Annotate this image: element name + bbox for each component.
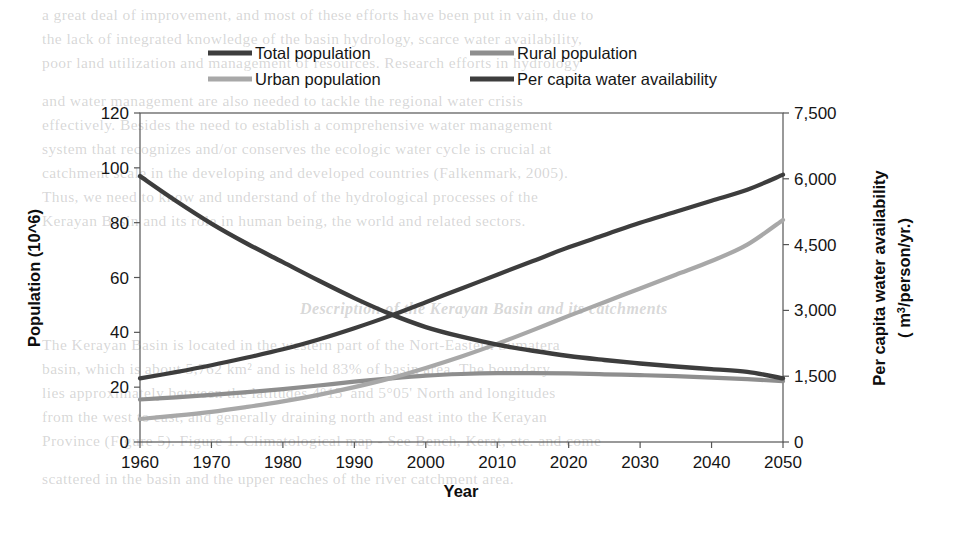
x-tick-label: 2020 — [550, 453, 588, 472]
y-axis-title: Population (10^6) — [25, 209, 43, 347]
left-tick-label: 20 — [110, 378, 129, 397]
chart-series-lines — [140, 175, 783, 419]
right-tick-label: 7,500 — [794, 104, 837, 123]
x-tick-label: 1990 — [335, 453, 373, 472]
x-tick-label: 2040 — [693, 453, 731, 472]
right-y-axis-title-line2: ( m3/person/yr.) — [895, 218, 913, 338]
right-y-axis: 01,5003,0004,5006,0007,500 — [783, 104, 837, 452]
series-line-rural-population — [140, 373, 783, 399]
right-y-axis-title: Per capita water availability ( m3/perso… — [870, 169, 913, 385]
chart-svg: Total populationRural populationUrban po… — [0, 0, 959, 535]
left-tick-label: 0 — [120, 433, 129, 452]
left-tick-label: 100 — [101, 159, 129, 178]
population-water-availability-chart: Total populationRural populationUrban po… — [0, 0, 959, 535]
x-axis-title: Year — [444, 482, 479, 500]
left-y-axis: 020406080100120 — [101, 104, 140, 452]
series-line-total-population — [140, 175, 783, 379]
left-tick-label: 40 — [110, 323, 129, 342]
chart-legend: Total populationRural populationUrban po… — [208, 44, 718, 88]
series-line-urban-population — [140, 220, 783, 419]
right-tick-label: 6,000 — [794, 170, 837, 189]
left-tick-label: 120 — [101, 104, 129, 123]
left-tick-label: 80 — [110, 214, 129, 233]
x-tick-label: 1980 — [264, 453, 302, 472]
left-tick-label: 60 — [110, 269, 129, 288]
x-tick-label: 1960 — [121, 453, 159, 472]
x-axis: 1960197019801990200020102020203020402050 — [121, 442, 802, 472]
legend-label: Total population — [255, 44, 371, 62]
x-tick-label: 2000 — [407, 453, 445, 472]
x-tick-label: 2010 — [478, 453, 516, 472]
legend-label: Rural population — [517, 44, 637, 62]
right-tick-label: 1,500 — [794, 367, 837, 386]
legend-label: Per capita water availability — [517, 70, 718, 88]
right-tick-label: 3,000 — [794, 301, 837, 320]
x-tick-label: 2050 — [764, 453, 802, 472]
x-tick-label: 1970 — [193, 453, 231, 472]
right-tick-label: 4,500 — [794, 236, 837, 255]
legend-label: Urban population — [255, 70, 381, 88]
x-tick-label: 2030 — [621, 453, 659, 472]
right-y-axis-title-line1: Per capita water availability — [870, 169, 888, 385]
right-tick-label: 0 — [794, 433, 803, 452]
